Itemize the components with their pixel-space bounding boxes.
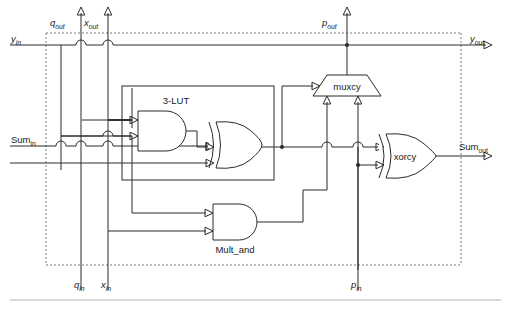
label-y-out: yout [469,33,485,46]
label-muxcy: muxcy [333,81,361,92]
sum-in-bus [10,141,214,150]
label-sum-in: Sumin [11,134,36,147]
lut-and-gate [138,111,186,151]
label-x-out: xout [83,17,99,30]
xor-lower-input [10,159,214,167]
mult-and-output-route [257,155,327,222]
label-xorcy: xorcy [394,151,417,162]
mult-and-gate [213,204,257,240]
label-3-lut: 3-LUT [163,95,190,106]
label-sum-out: Sumout [459,141,488,154]
schematic-svg: qout xout pout yin yout Sumin Sumout qin… [0,0,511,313]
label-p-in: pin [350,279,362,292]
label-y-in: yin [10,33,21,46]
lut-xor-gate [209,122,262,169]
figure-canvas: qout xout pout yin yout Sumin Sumout qin… [0,0,511,313]
left-vertical-feeders [61,45,132,290]
label-x-in: xin [100,279,111,292]
label-mult-and: Mult_and [215,244,254,255]
junction-dot [280,145,284,149]
y-bus [10,40,492,49]
top-output-stubs [77,7,351,45]
label-q-in: qin [74,279,85,292]
label-q-out: qout [50,17,66,30]
label-p-out: pout [321,17,338,30]
lut-and-inputs [61,116,138,140]
